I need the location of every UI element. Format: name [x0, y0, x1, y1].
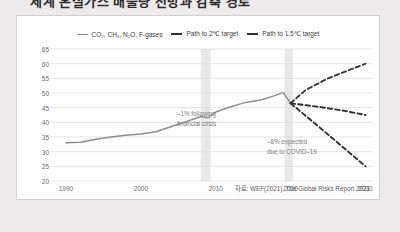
y-axis-tick-label: 40: [27, 119, 49, 126]
clipped-headline-strip: 세계 온실가스 배출량 전망과 감축 경로: [0, 0, 400, 12]
y-axis-tick-label: 65: [27, 46, 49, 53]
x-axis-tick-label: 2010: [209, 185, 223, 192]
annotation-covid-line2: due to COVID–19: [267, 147, 317, 157]
chart-card: CO₂, CH₄, N₂O, F-gases Path to 2℃ target…: [16, 15, 380, 200]
source-note: 자료: WEF(2021), The Global Risks Report 2…: [235, 184, 370, 193]
annotation-covid-line1: –8% expected: [267, 137, 317, 147]
y-axis-tick-label: 20: [27, 178, 49, 185]
y-axis-tick-label: 55: [27, 75, 49, 82]
annotation-financial-crisis: –1% following financial crisis: [177, 109, 216, 129]
page-root: 세계 온실가스 배출량 전망과 감축 경로 CO₂, CH₄, N₂O, F-g…: [0, 0, 400, 232]
annotation-crisis-line2: financial crisis: [177, 119, 216, 129]
x-axis-tick-label: 2000: [134, 185, 148, 192]
y-axis-tick-label: 50: [27, 90, 49, 97]
y-axis-tick-label: 35: [27, 134, 49, 141]
y-axis-tick-label: 60: [27, 60, 49, 67]
y-axis-tick-label: 30: [27, 148, 49, 155]
y-axis-tick-label: 45: [27, 104, 49, 111]
x-axis-tick-label: 1990: [59, 185, 73, 192]
plot-area: 20253035404550556065 1990200020102020203…: [17, 16, 381, 201]
annotation-covid: –8% expected due to COVID–19: [267, 137, 317, 157]
annotation-crisis-line1: –1% following: [177, 109, 216, 119]
y-axis-tick-label: 25: [27, 163, 49, 170]
page-headline: 세계 온실가스 배출량 전망과 감축 경로: [30, 0, 251, 10]
